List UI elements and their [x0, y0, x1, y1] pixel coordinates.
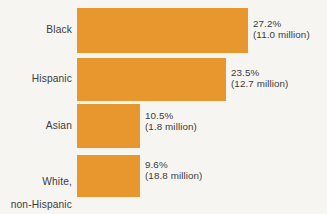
bar-row: Hispanic 23.5% (12.7 million) [0, 58, 327, 101]
value-label-white-non-hispanic: 9.6% (18.8 million) [145, 159, 202, 182]
value-label-asian: 10.5% (1.8 million) [145, 110, 197, 133]
category-label-black: Black [0, 24, 72, 36]
category-label-white-non-hispanic: White, non-Hispanic [0, 164, 72, 214]
value-percent: 23.5% [231, 67, 288, 78]
category-label-hispanic: Hispanic [0, 73, 72, 85]
value-count: (18.8 million) [145, 170, 202, 181]
bar-row: Black 27.2% (11.0 million) [0, 8, 327, 53]
value-count: (1.8 million) [145, 121, 197, 132]
bar-row: Asian 10.5% (1.8 million) [0, 104, 327, 148]
bar-black [77, 8, 248, 53]
bar-white-non-hispanic [77, 155, 140, 197]
bar-row: White, non-Hispanic 9.6% (18.8 million) [0, 155, 327, 197]
bar-chart: Black 27.2% (11.0 million) Hispanic 23.5… [0, 0, 327, 214]
value-percent: 27.2% [253, 18, 310, 29]
category-label-line1: White, [42, 176, 72, 187]
bar-asian [77, 104, 140, 148]
value-count: (11.0 million) [253, 29, 310, 40]
category-label-line2: non-Hispanic [11, 199, 72, 210]
value-percent: 10.5% [145, 110, 197, 121]
value-percent: 9.6% [145, 159, 202, 170]
category-label-asian: Asian [0, 120, 72, 132]
bar-hispanic [77, 58, 226, 101]
value-label-hispanic: 23.5% (12.7 million) [231, 67, 288, 90]
value-count: (12.7 million) [231, 78, 288, 89]
value-label-black: 27.2% (11.0 million) [253, 18, 310, 41]
